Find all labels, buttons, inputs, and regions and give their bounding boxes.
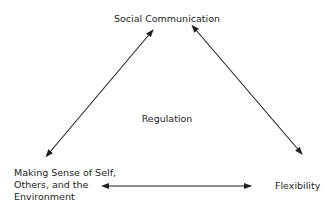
- arrow-left-to-top: [50, 30, 153, 152]
- arrow-top-to-right: [196, 30, 302, 154]
- node-social-communication: Social Communication: [0, 13, 334, 25]
- node-making-sense-line-1: Making Sense of Self,: [14, 167, 134, 179]
- node-making-sense-line-3: Environment: [14, 191, 134, 203]
- node-flexibility: Flexibility: [275, 180, 320, 192]
- node-making-sense-line-2: Others, and the: [14, 179, 134, 191]
- node-making-sense: Making Sense of Self, Others, and the En…: [14, 167, 134, 203]
- node-regulation: Regulation: [0, 113, 334, 125]
